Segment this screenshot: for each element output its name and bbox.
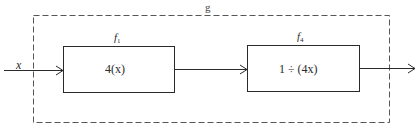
connecting-arrow	[175, 65, 247, 74]
block-f4-subscript: 4	[300, 36, 304, 44]
output-arrow	[360, 64, 415, 73]
input-label: x	[16, 59, 21, 71]
outer-function-label: g	[205, 2, 211, 13]
block-f4-title: f4	[297, 31, 304, 44]
block-f1-expression: 4(x)	[105, 63, 125, 75]
block-f4-expression: 1 ÷ (4x)	[279, 63, 318, 75]
block-f1-title: f1	[114, 32, 121, 45]
block-f1-subscript: 1	[117, 37, 121, 45]
diagram-canvas	[0, 0, 417, 132]
